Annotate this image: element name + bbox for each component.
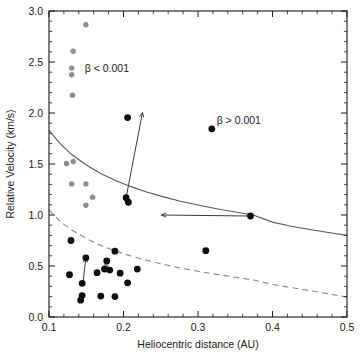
data-point	[68, 237, 75, 244]
data-point	[71, 159, 76, 164]
data-point	[77, 297, 84, 304]
y-tick-label: 3.0	[28, 5, 43, 17]
x-tick-label: 0.2	[116, 321, 131, 333]
data-point	[79, 280, 86, 287]
data-point	[70, 92, 75, 97]
data-point	[112, 248, 119, 255]
y-tick-label: 2.5	[28, 56, 43, 68]
data-point	[112, 293, 119, 300]
data-point	[69, 65, 74, 70]
data-point	[83, 22, 88, 27]
data-point	[134, 266, 141, 273]
data-point	[106, 267, 113, 274]
beta-less-than-label: β < 0.001	[85, 62, 129, 74]
data-point	[69, 181, 74, 186]
data-point	[117, 270, 124, 277]
plot-background	[0, 0, 362, 356]
scatter-plot-figure: 0.10.20.30.40.50.00.51.01.52.02.53.0 β <…	[0, 0, 362, 356]
data-point	[83, 181, 88, 186]
x-tick-label: 0.4	[265, 321, 280, 333]
data-point	[82, 254, 89, 261]
data-point	[202, 247, 209, 254]
x-tick-label: 0.5	[340, 321, 355, 333]
data-point	[208, 125, 215, 132]
data-point	[103, 258, 110, 265]
data-point	[94, 269, 101, 276]
x-axis-title: Heliocentric distance (AU)	[137, 338, 258, 350]
chart-canvas: 0.10.20.30.40.50.00.51.01.52.02.53.0 β <…	[0, 0, 362, 356]
beta-greater-than-label: β > 0.001	[217, 114, 261, 126]
data-point	[97, 293, 104, 300]
y-tick-label: 1.5	[28, 158, 43, 170]
y-tick-label: 0.0	[28, 311, 43, 323]
data-point	[64, 161, 69, 166]
y-tick-label: 0.5	[28, 260, 43, 272]
y-tick-label: 2.0	[28, 107, 43, 119]
x-tick-label: 0.3	[191, 321, 206, 333]
data-point	[124, 279, 131, 286]
data-point	[71, 49, 76, 54]
data-point	[69, 72, 74, 77]
data-point	[123, 194, 130, 201]
data-point	[83, 203, 88, 208]
y-tick-label: 1.0	[28, 209, 43, 221]
data-point	[66, 271, 73, 278]
data-point	[247, 213, 254, 220]
y-axis-title: Relative Velocity (km/s)	[4, 109, 16, 218]
x-tick-label: 0.1	[42, 321, 57, 333]
data-point	[124, 114, 131, 121]
data-point	[90, 194, 95, 199]
